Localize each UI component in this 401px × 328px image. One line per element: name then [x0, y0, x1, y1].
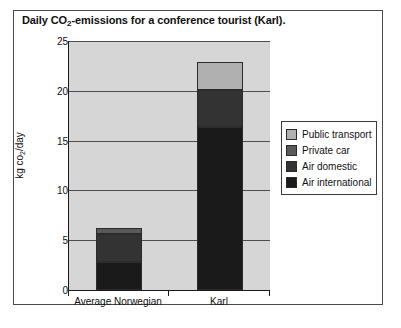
y-tick-label-20: 20: [42, 85, 68, 96]
bar-average-norwegian[interactable]: [96, 228, 142, 290]
legend-swatch-private-car: [286, 145, 297, 156]
y-tick-label-5: 5: [42, 235, 68, 246]
plot-area: [68, 41, 270, 291]
legend-item-air-domestic[interactable]: Air domestic: [286, 158, 371, 174]
y-tick-label-15: 15: [42, 135, 68, 146]
legend-swatch-public-transport: [286, 129, 297, 140]
chart-title-suffix: -emissions for a conference tourist (Kar…: [71, 14, 285, 26]
x-axis-label-average-norwegian: Average Norwegian: [74, 296, 162, 307]
bar-segment-air-domestic[interactable]: [96, 234, 142, 262]
legend-label-air-international: Air international: [302, 177, 371, 188]
bar-segment-air-domestic[interactable]: [197, 90, 243, 127]
chart-title-prefix: Daily CO: [22, 14, 67, 26]
bar-segment-private-car[interactable]: [96, 228, 142, 234]
legend-item-air-international[interactable]: Air international: [286, 174, 371, 190]
bar-segment-public-transport[interactable]: [197, 62, 243, 90]
bar-karl[interactable]: [197, 62, 243, 290]
legend-swatch-air-international: [286, 177, 297, 188]
x-tick-end: [269, 290, 270, 296]
bar-segment-air-international[interactable]: [197, 127, 243, 290]
y-axis-label-suffix: /day: [14, 132, 25, 151]
x-tick-start: [68, 290, 69, 296]
legend-item-public-transport[interactable]: Public transport: [286, 126, 371, 142]
y-tick-label-0: 0: [42, 285, 68, 296]
y-axis-label-prefix: kg co: [14, 155, 25, 179]
y-axis-label-subscript: 2: [19, 151, 26, 155]
legend-swatch-air-domestic: [286, 161, 297, 172]
legend: Public transport Private car Air domesti…: [281, 121, 377, 195]
y-axis-ticks: 25 20 15 10 5 0: [32, 41, 68, 290]
legend-label-public-transport: Public transport: [302, 129, 371, 140]
x-tick-middle: [168, 290, 169, 296]
y-tick-label-25: 25: [42, 36, 68, 47]
gridline-25: [69, 41, 270, 42]
bar-segment-air-international[interactable]: [96, 262, 142, 290]
legend-label-air-domestic: Air domestic: [302, 161, 357, 172]
chart-title-subscript: 2: [67, 19, 71, 28]
legend-item-private-car[interactable]: Private car: [286, 142, 371, 158]
y-axis-label: kg co2/day: [14, 101, 25, 211]
x-axis-label-karl: Karl: [210, 296, 228, 307]
legend-label-private-car: Private car: [302, 145, 350, 156]
y-tick-label-10: 10: [42, 185, 68, 196]
chart-title: Daily CO2-emissions for a conference tou…: [22, 14, 285, 26]
